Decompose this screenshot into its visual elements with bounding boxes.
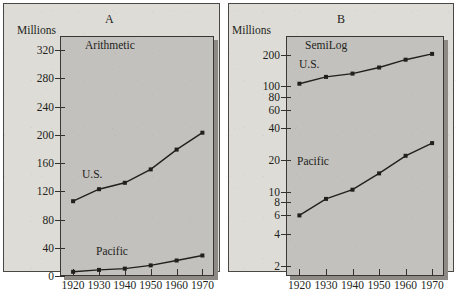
data-point-a-pacific-1940 (123, 267, 127, 271)
data-point-b-pacific-1970 (430, 141, 434, 145)
data-point-b-us-1920 (297, 82, 301, 86)
data-point-a-us-1930 (97, 187, 101, 191)
data-point-b-pacific-1960 (404, 154, 408, 158)
data-point-a-pacific-1950 (149, 263, 153, 267)
series-label-us-b: U.S. (299, 58, 319, 70)
data-point-b-us-1970 (430, 52, 434, 56)
two-panel-population-figure: Millions A Arithmetic Millions B SemiLog… (0, 0, 457, 298)
data-point-a-us-1960 (175, 148, 179, 152)
series-label-pacific-b: Pacific (297, 155, 329, 167)
data-point-a-us-1970 (200, 131, 204, 135)
data-point-b-us-1940 (351, 72, 355, 76)
data-point-b-pacific-1940 (351, 188, 355, 192)
data-point-a-us-1940 (123, 181, 127, 185)
data-point-b-us-1930 (324, 75, 328, 79)
data-point-a-us-1950 (149, 167, 153, 171)
series-label-pacific-a: Pacific (96, 245, 128, 257)
series-layer (0, 0, 457, 298)
series-line-a-pacific (73, 256, 202, 272)
data-point-a-pacific-1920 (71, 270, 75, 274)
data-point-b-pacific-1920 (297, 213, 301, 217)
data-point-a-pacific-1960 (175, 259, 179, 263)
data-point-b-pacific-1950 (377, 171, 381, 175)
data-point-a-us-1920 (71, 199, 75, 203)
data-point-a-pacific-1970 (200, 254, 204, 258)
data-point-b-pacific-1930 (324, 197, 328, 201)
series-line-a-us (73, 133, 202, 202)
data-point-b-us-1960 (404, 58, 408, 62)
series-label-us-a: U.S. (82, 168, 102, 180)
data-point-a-pacific-1930 (97, 268, 101, 272)
data-point-b-us-1950 (377, 66, 381, 70)
series-line-b-pacific (299, 143, 432, 215)
